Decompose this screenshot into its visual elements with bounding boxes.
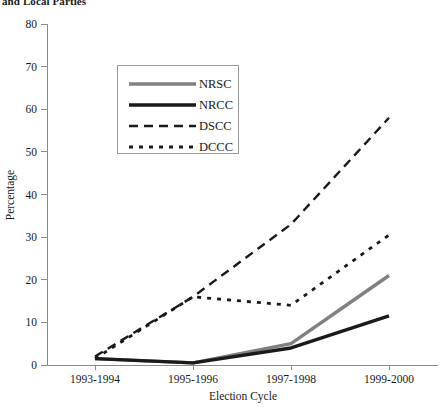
data-series-group: [95, 118, 389, 363]
x-tick-label: 1995-1996: [168, 373, 218, 385]
series-line-nrcc: [95, 316, 389, 363]
y-axis-title: Percentage: [4, 170, 17, 220]
legend-label-nrcc: NRCC: [199, 98, 233, 112]
y-tick-label: 20: [26, 274, 38, 286]
series-line-dccc: [95, 235, 389, 359]
y-tick-label: 10: [26, 316, 38, 328]
y-tick-label: 80: [26, 18, 38, 30]
chart-legend: NRSCNRCCDSCCDCCC: [117, 65, 238, 154]
y-tick-label: 40: [26, 189, 38, 201]
legend-label-dscc: DSCC: [199, 119, 232, 133]
x-axis-title: Election Cycle: [209, 390, 277, 403]
y-tick-label: 50: [26, 146, 38, 158]
y-tick-label: 30: [26, 231, 38, 243]
legend-label-dccc: DCCC: [199, 140, 233, 154]
chart-figure: and Local Parties 01020304050607080 1993…: [0, 0, 441, 407]
legend-label-nrsc: NRSC: [199, 77, 232, 91]
y-tick-label: 60: [26, 103, 38, 115]
series-line-dscc: [95, 118, 389, 357]
x-tick-label: 1999-2000: [364, 373, 414, 385]
series-line-nrsc: [95, 275, 389, 362]
x-tick-label: 1997-1998: [266, 373, 316, 385]
y-tick-label: 70: [26, 61, 38, 73]
line-chart-plot: 01020304050607080 1993-19941995-19961997…: [0, 0, 441, 407]
y-tick-label: 0: [31, 359, 37, 371]
y-axis-ticks: 01020304050607080: [26, 18, 48, 371]
x-axis-ticks: 1993-19941995-19961997-19981999-2000: [70, 365, 414, 385]
x-tick-label: 1993-1994: [70, 373, 120, 385]
